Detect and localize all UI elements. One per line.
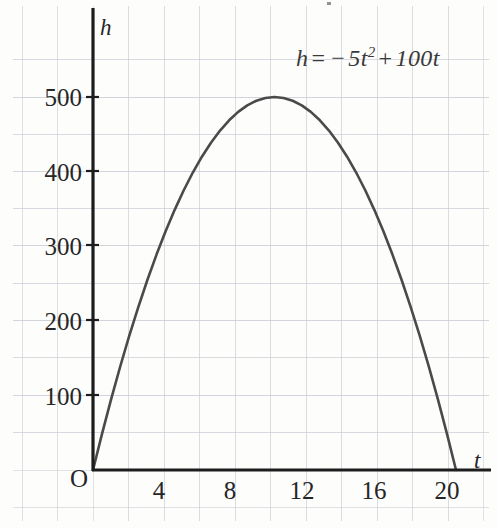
equation-coefficient: 5 — [348, 45, 360, 71]
equation-second-variable: t — [433, 45, 440, 71]
axis-lines — [0, 0, 497, 528]
origin-label: O — [70, 466, 88, 491]
y-tick-label-500: 500 — [34, 85, 82, 110]
equation-exponent: 2 — [368, 44, 376, 60]
y-tick-label-400: 400 — [34, 160, 82, 185]
equation-lhs: h — [296, 45, 308, 71]
x-axis-name-label: t — [474, 449, 480, 472]
x-tick-label-4: 4 — [153, 478, 166, 503]
y-axis-name-label: h — [100, 16, 112, 39]
equation-annotation: h=−5t2+100t — [296, 44, 440, 72]
equation-second-term: 100 — [396, 45, 433, 71]
x-tick-label-20: 20 — [435, 478, 460, 503]
equation-equals: = — [308, 45, 328, 71]
equation-minus: − — [328, 45, 348, 71]
x-tick-label-12: 12 — [290, 478, 315, 503]
equation-plus: + — [376, 45, 396, 71]
graph-figure: h=−5t2+100t 500 400 300 200 100 4 8 12 1… — [0, 0, 497, 528]
y-tick-label-300: 300 — [34, 234, 82, 259]
x-tick-label-16: 16 — [362, 478, 387, 503]
y-tick-label-100: 100 — [34, 384, 82, 409]
scan-speck — [327, 2, 331, 5]
y-tick-label-200: 200 — [34, 309, 82, 334]
x-tick-label-8: 8 — [224, 478, 237, 503]
equation-variable: t — [361, 45, 368, 71]
